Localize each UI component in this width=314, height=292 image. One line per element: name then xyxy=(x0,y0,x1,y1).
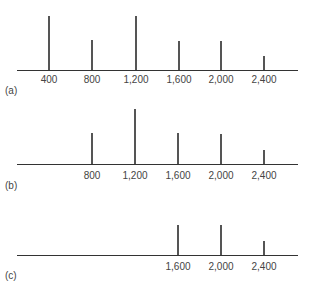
bar-c-2000 xyxy=(220,225,222,255)
tick-label: 1,600 xyxy=(165,261,190,272)
panel-label-c: (c) xyxy=(5,270,17,281)
panel-c: 1,600 2,000 2,400 (c) xyxy=(0,0,314,292)
x-axis-c xyxy=(17,255,298,256)
bar-c-2400 xyxy=(263,241,265,255)
bar-c-1600 xyxy=(177,225,179,255)
tick-label: 2,000 xyxy=(208,261,233,272)
tick-label: 2,400 xyxy=(251,261,276,272)
